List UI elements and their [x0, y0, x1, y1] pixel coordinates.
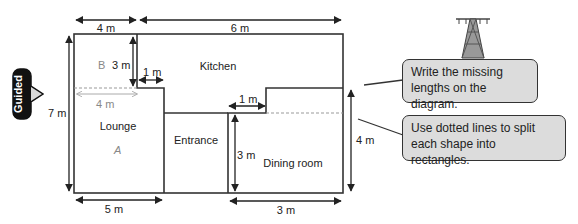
room-entrance: Entrance — [174, 134, 218, 146]
dim-right: 4 m — [356, 134, 374, 146]
room-dining: Dining room — [263, 157, 322, 169]
pylon-icon — [456, 19, 490, 58]
dim-top-right: 6 m — [231, 22, 249, 34]
callout-missing-lengths: Write the missing lengths on the diagram… — [402, 59, 538, 103]
guided-label: Guided — [12, 75, 24, 113]
region-a: A — [113, 144, 121, 156]
guided-badge: Guided — [10, 68, 44, 120]
callout-dotted-lines: Use dotted lines to split each shape int… — [402, 115, 566, 161]
dimension-arrows — [69, 20, 351, 201]
region-b: B — [98, 59, 105, 71]
room-kitchen: Kitchen — [200, 60, 237, 72]
dim-bottom-right: 3 m — [277, 204, 295, 216]
dim-kitchen-drop: 3 m — [112, 59, 130, 71]
room-lounge: Lounge — [100, 120, 137, 132]
dim-top-left: 4 m — [97, 22, 115, 34]
callout-pointer-1 — [364, 80, 403, 85]
dim-kitchen-step: 1 m — [143, 66, 161, 78]
dim-lounge-inner: 4 m — [96, 98, 114, 110]
dim-dining-step: 1 m — [239, 93, 257, 105]
dim-left: 7 m — [48, 107, 66, 119]
dotted-split-lines — [74, 88, 343, 113]
dim-dining-height: 3 m — [237, 149, 255, 161]
floor-plan-diagram: 4 m 6 m 7 m 3 m 1 m 4 m 1 m 3 m 4 m 5 m … — [0, 0, 578, 224]
dim-bottom-left: 5 m — [105, 203, 123, 215]
callout-pointer-2 — [358, 119, 403, 135]
